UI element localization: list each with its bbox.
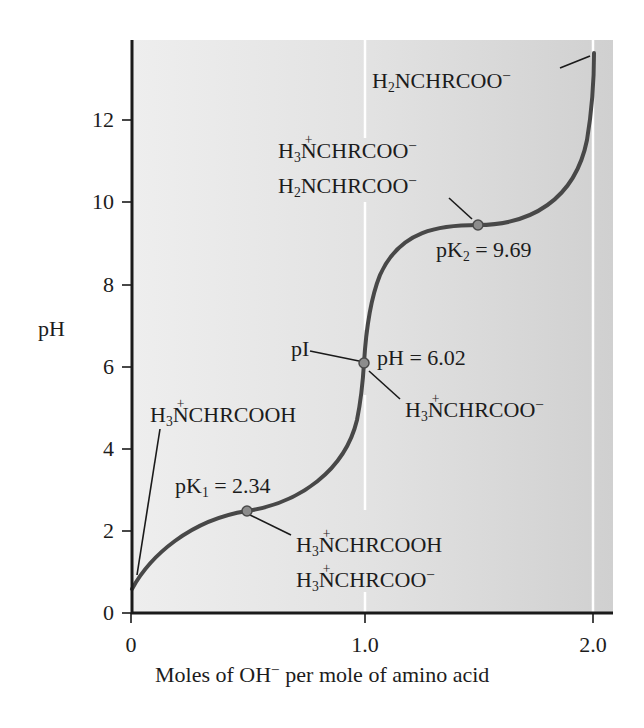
pk1-marker <box>242 506 252 516</box>
label-pi: pI <box>291 338 309 360</box>
label-pi-value: pH = 6.02 <box>377 347 466 369</box>
pk2-marker <box>473 220 483 230</box>
label-pk1-species-1: H3+NCHRCOOH <box>296 534 442 556</box>
y-tick-label: 10 <box>74 191 114 213</box>
x-tick-label: 0 <box>101 634 161 656</box>
y-tick-label: 2 <box>74 520 114 542</box>
y-axis-title: pH <box>38 318 65 340</box>
x-tick-label: 2.0 <box>563 634 623 656</box>
y-tick-label: 12 <box>74 109 114 131</box>
x-axis-title-rest: per mole of amino acid <box>280 662 490 687</box>
label-pk1-species-2: H3+NCHRCOO− <box>296 569 435 591</box>
y-tick-label: 4 <box>74 438 114 460</box>
label-top-end-species: H2NCHRCOO− <box>372 70 511 92</box>
y-tick-label: 8 <box>74 274 114 296</box>
y-tick-label: 6 <box>74 356 114 378</box>
x-axis-title: Moles of OH− per mole of amino acid <box>155 664 489 686</box>
x-axis-title-sup: − <box>271 661 280 678</box>
pi-marker <box>359 358 369 368</box>
x-tick-label: 1.0 <box>335 634 395 656</box>
plot-background <box>132 40 613 613</box>
label-start-species: H3+NCHRCOOH <box>150 404 296 426</box>
label-pk2-value: pK2 = 9.69 <box>436 239 532 261</box>
label-pk2-species-1: H3+NCHRCOO− <box>278 140 417 162</box>
x-axis-title-main: Moles of OH <box>155 662 271 687</box>
label-pk1-value: pK1 = 2.34 <box>175 475 271 497</box>
titration-figure: 0 2 4 6 8 10 12 0 1.0 2.0 pH Moles of OH… <box>0 0 644 728</box>
label-pk2-species-2: H2NCHRCOO− <box>278 175 417 197</box>
y-tick-label: 0 <box>74 602 114 624</box>
label-pi-species: H3+NCHRCOO− <box>405 399 544 421</box>
